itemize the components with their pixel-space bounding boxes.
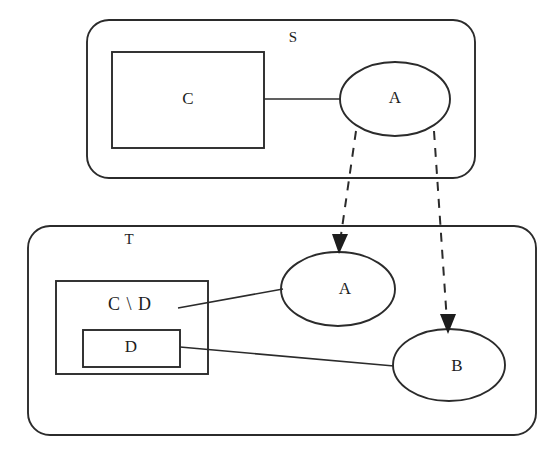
diagram-canvas: S C A T C \ D D (0, 0, 559, 458)
box-c[interactable]: C (112, 52, 264, 148)
link-d-to-b-in-t (180, 347, 394, 366)
container-s-label: S (289, 29, 297, 45)
dashed-arrow-a-to-b-head (440, 314, 456, 334)
link-c-minus-d-to-a-in-t (178, 289, 283, 308)
ellipse-a-in-s[interactable]: A (340, 62, 450, 136)
box-c-minus-d[interactable]: C \ D (56, 281, 208, 374)
dashed-arrow-a-to-a-head (332, 234, 348, 254)
ellipse-b-in-t[interactable]: B (393, 329, 505, 401)
ellipse-a-in-t-label: A (339, 279, 352, 298)
ellipse-b-in-t-label: B (451, 356, 462, 375)
dashed-arrow-a-to-b (434, 131, 456, 334)
ellipse-b-in-t-outline[interactable] (393, 329, 505, 401)
box-d[interactable]: D (83, 330, 180, 367)
ellipse-a-in-s-label: A (389, 88, 402, 107)
box-c-label: C (182, 89, 193, 108)
ellipse-a-in-t[interactable]: A (281, 252, 395, 326)
box-d-label: D (125, 337, 137, 356)
box-c-minus-d-label: C \ D (108, 294, 152, 314)
diagram-svg: S C A T C \ D D (0, 0, 559, 458)
dashed-arrow-a-to-a (332, 131, 356, 254)
container-t-label: T (124, 231, 133, 247)
